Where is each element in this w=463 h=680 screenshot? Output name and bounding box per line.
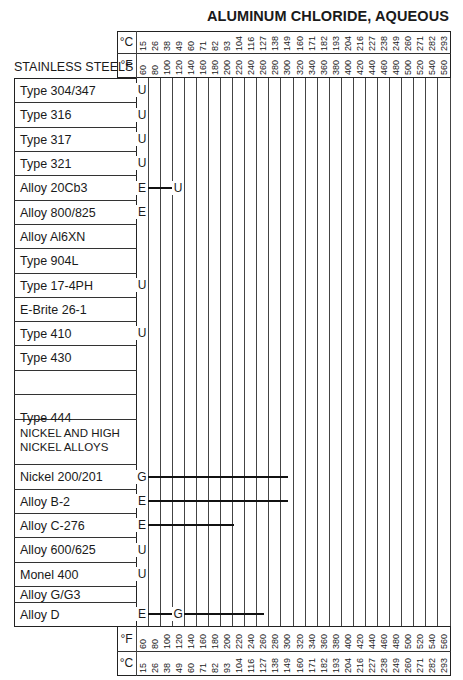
rating-code: E bbox=[136, 494, 148, 508]
bottom-scale-divider bbox=[117, 651, 451, 652]
material-label: Alloy D bbox=[20, 608, 60, 622]
rating-code: U bbox=[136, 543, 148, 557]
row-divider bbox=[14, 248, 137, 249]
row-divider bbox=[14, 200, 137, 201]
row-divider bbox=[14, 602, 137, 603]
gridline bbox=[365, 78, 366, 626]
row-divider bbox=[14, 464, 137, 465]
row-divider bbox=[14, 321, 137, 322]
rating-range-bar bbox=[183, 613, 264, 615]
material-label: Type 317 bbox=[20, 133, 71, 147]
material-label: E-Brite 26-1 bbox=[20, 303, 87, 317]
material-label: Type 316 bbox=[20, 108, 71, 122]
gridline bbox=[268, 78, 269, 626]
rating-code: E bbox=[136, 518, 148, 532]
row-divider bbox=[14, 513, 137, 514]
row-divider bbox=[14, 273, 137, 274]
gridline bbox=[208, 78, 209, 626]
rating-code: E bbox=[136, 607, 148, 621]
gridline bbox=[196, 78, 197, 626]
gridline bbox=[244, 78, 245, 626]
gridline bbox=[232, 78, 233, 626]
row-divider bbox=[14, 102, 137, 103]
rating-code: G bbox=[172, 607, 184, 621]
bottom-fahrenheit-unit: °F bbox=[117, 632, 136, 646]
rating-range-bar bbox=[147, 476, 288, 478]
gridline bbox=[280, 78, 281, 626]
gridline bbox=[377, 78, 378, 626]
material-label: Monel 400 bbox=[20, 568, 78, 582]
gridline bbox=[160, 78, 161, 626]
material-label: Alloy 600/625 bbox=[20, 543, 96, 557]
material-label: Alloy G/G3 bbox=[20, 588, 80, 602]
material-label: Alloy Al6XN bbox=[20, 230, 85, 244]
gridline bbox=[353, 78, 354, 626]
material-label: Alloy C-276 bbox=[20, 519, 85, 533]
material-label: Type 410 bbox=[20, 327, 71, 341]
gridline bbox=[220, 78, 221, 626]
row-divider bbox=[14, 489, 137, 490]
gridline bbox=[341, 78, 342, 626]
gridline bbox=[148, 78, 149, 626]
row-divider bbox=[14, 224, 137, 225]
rating-code: U bbox=[136, 83, 148, 97]
gridline bbox=[425, 78, 426, 626]
gridline bbox=[389, 78, 390, 626]
section-header-stainless: STAINLESS STEELS bbox=[14, 60, 133, 74]
rating-code: U bbox=[136, 132, 148, 146]
gridline bbox=[293, 78, 294, 626]
row-divider bbox=[14, 345, 137, 346]
rating-range-bar bbox=[147, 500, 288, 502]
gridline bbox=[329, 78, 330, 626]
material-label: Type 321 bbox=[20, 157, 71, 171]
row-divider bbox=[14, 127, 137, 128]
gridline bbox=[172, 78, 173, 626]
rating-code: E bbox=[136, 181, 148, 195]
bottom-celsius-unit: °C bbox=[117, 656, 136, 670]
row-divider bbox=[14, 537, 137, 538]
material-label: Nickel 200/201 bbox=[20, 470, 103, 484]
row-divider bbox=[14, 151, 137, 152]
material-label: Type 444 bbox=[20, 411, 71, 425]
material-label: Type 904L bbox=[20, 254, 78, 268]
row-divider bbox=[14, 562, 137, 563]
row-divider bbox=[14, 297, 137, 298]
row-divider bbox=[14, 394, 137, 395]
row-divider bbox=[14, 370, 137, 371]
gridline bbox=[413, 78, 414, 626]
gridline bbox=[317, 78, 318, 626]
rating-code: U bbox=[172, 181, 184, 195]
rating-code: G bbox=[136, 470, 148, 484]
section-header-nickel: NICKEL AND HIGH NICKEL ALLOYS bbox=[20, 426, 120, 454]
gridline bbox=[401, 78, 402, 626]
material-label: Alloy 20Cb3 bbox=[20, 181, 87, 195]
material-label: Alloy 800/825 bbox=[20, 206, 96, 220]
top-celsius-unit: °C bbox=[117, 35, 136, 49]
material-label: Type 430 bbox=[20, 351, 71, 365]
rating-code: U bbox=[136, 108, 148, 122]
rating-code: U bbox=[136, 278, 148, 292]
rating-code: U bbox=[136, 156, 148, 170]
grid-right-border bbox=[450, 78, 451, 627]
rating-code: U bbox=[136, 567, 148, 581]
gridline bbox=[184, 78, 185, 626]
rating-range-bar bbox=[147, 524, 234, 526]
top-scale-divider bbox=[117, 53, 451, 54]
rating-code: U bbox=[136, 326, 148, 340]
row-divider bbox=[14, 175, 137, 176]
gridline bbox=[305, 78, 306, 626]
chart-title: ALUMINUM CHLORIDE, AQUEOUS bbox=[207, 8, 449, 24]
material-label: Type 304/347 bbox=[20, 84, 96, 98]
material-label: Type 17-4PH bbox=[20, 279, 93, 293]
gridline bbox=[256, 78, 257, 626]
gridline bbox=[437, 78, 438, 626]
material-label: Alloy B-2 bbox=[20, 495, 70, 509]
rating-code: E bbox=[136, 205, 148, 219]
